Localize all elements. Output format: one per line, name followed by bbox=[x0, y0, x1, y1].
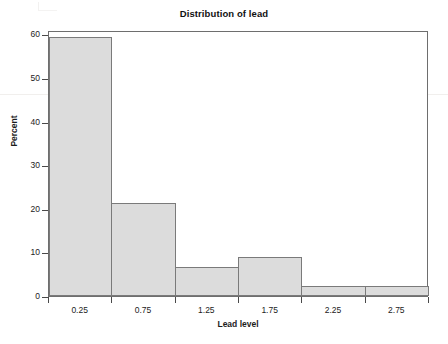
x-axis-tick-label: 0.75 bbox=[115, 306, 171, 315]
histogram-figure: Distribution of lead 0102030405060 Perce… bbox=[0, 0, 448, 344]
histogram-bar bbox=[301, 286, 365, 296]
histogram-bar bbox=[238, 257, 302, 296]
x-axis-tick-label: 1.75 bbox=[242, 306, 298, 315]
y-axis-tick-label: 60 bbox=[14, 30, 40, 39]
y-axis-tick-label: 20 bbox=[14, 205, 40, 214]
plot-frame bbox=[48, 31, 428, 297]
x-axis-label: Lead level bbox=[48, 319, 428, 329]
histogram-bar bbox=[111, 203, 175, 296]
histogram-bar bbox=[49, 37, 112, 296]
chart-title: Distribution of lead bbox=[0, 8, 448, 19]
x-axis-tick-label: 0.25 bbox=[52, 306, 108, 315]
x-axis-tick bbox=[175, 297, 176, 303]
x-axis-tick bbox=[238, 297, 239, 303]
y-axis-tick-label: 0 bbox=[14, 292, 40, 301]
x-axis-tick-label: 2.25 bbox=[305, 306, 361, 315]
y-axis-tick-label: 10 bbox=[14, 248, 40, 257]
x-axis-tick bbox=[111, 297, 112, 303]
histogram-bar bbox=[175, 267, 239, 296]
histogram-bar bbox=[365, 286, 429, 296]
x-axis-tick-label: 2.75 bbox=[368, 306, 424, 315]
x-axis-tick-label: 1.25 bbox=[178, 306, 234, 315]
plot-area bbox=[49, 32, 427, 296]
x-axis-tick bbox=[301, 297, 302, 303]
x-axis-tick bbox=[48, 297, 49, 303]
y-axis-label: Percent bbox=[9, 71, 19, 191]
x-axis-tick bbox=[365, 297, 366, 303]
x-axis-tick bbox=[428, 297, 429, 303]
